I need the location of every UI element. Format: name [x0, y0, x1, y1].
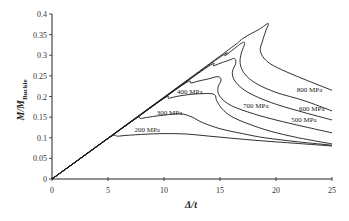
y-tick-label: 0 — [43, 175, 47, 184]
x-tick-label: 5 — [106, 186, 110, 195]
x-tick-label: 15 — [216, 186, 224, 195]
y-tick-label: 0.35 — [33, 31, 47, 40]
x-tick-label: 10 — [160, 186, 168, 195]
x-tick-label: 0 — [50, 186, 54, 195]
y-tick-label: 0.05 — [33, 154, 47, 163]
series-line-200-mpa — [52, 134, 332, 179]
series-line-800-mpa — [52, 23, 332, 179]
series-label: 700 MPa — [243, 102, 269, 110]
series-label: 800 MPa — [297, 86, 323, 94]
series-label: 500 MPa — [291, 116, 317, 124]
x-axis-title: Δ/t — [184, 199, 198, 210]
series-label: 400 MPa — [177, 88, 203, 96]
y-axis-title-sub: Buckle — [21, 79, 29, 100]
y-tick-label: 0.1 — [37, 134, 47, 143]
series-label: 200 MPa — [134, 126, 160, 134]
axes: 051015202500.050.10.150.20.250.30.350.4 — [33, 10, 336, 195]
y-axis-title-main: M/M — [15, 99, 26, 122]
series-label: 300 MPa — [157, 109, 183, 117]
chart-svg: 051015202500.050.10.150.20.250.30.350.4 … — [0, 0, 349, 221]
y-tick-label: 0.2 — [37, 93, 47, 102]
series-line-700-mpa — [52, 42, 332, 179]
x-tick-label: 25 — [328, 186, 336, 195]
x-tick-label: 20 — [272, 186, 280, 195]
series-line-400-mpa — [52, 94, 332, 179]
series-labels: 200 MPa300 MPa400 MPa500 MPa600 MPa700 M… — [134, 86, 325, 133]
y-tick-label: 0.15 — [33, 113, 47, 122]
y-tick-label: 0.3 — [37, 51, 47, 60]
y-tick-label: 0.4 — [37, 10, 47, 19]
y-tick-label: 0.25 — [33, 72, 47, 81]
curves — [52, 23, 332, 179]
series-label: 600 MPa — [299, 105, 325, 113]
y-axis-title: M/MBuckle — [15, 79, 29, 121]
svg-text:M/MBuckle: M/MBuckle — [15, 79, 29, 121]
